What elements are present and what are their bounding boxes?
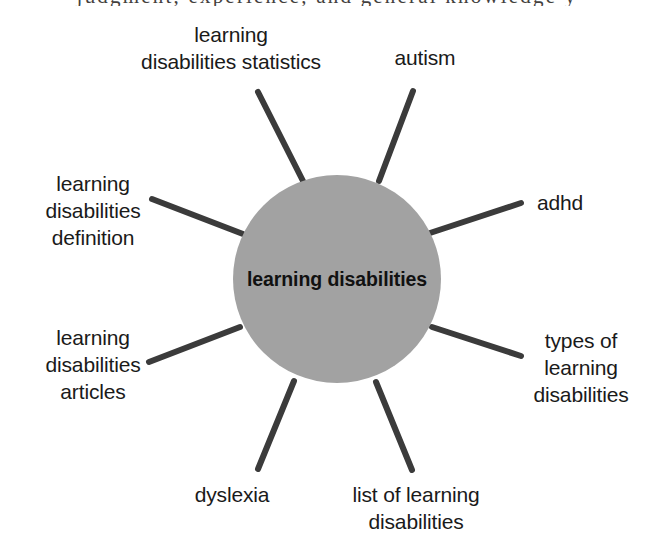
node-label-learning-disabilities-statistics[interactable]: learning disabilities statistics xyxy=(110,22,352,76)
node-label-adhd[interactable]: adhd xyxy=(500,190,620,217)
hub-circle-learning-disabilities[interactable]: learning disabilities xyxy=(233,175,441,383)
diagram-canvas: judgment, experience, and general knowle… xyxy=(0,0,654,551)
spoke-line-learning-disabilities-statistics xyxy=(258,92,303,181)
node-label-list-of-learning-disabilities[interactable]: list of learning disabilities xyxy=(310,482,522,536)
node-label-learning-disabilities-definition[interactable]: learning disabilities definition xyxy=(14,171,172,252)
node-label-dyslexia[interactable]: dyslexia xyxy=(152,482,312,509)
hub-label: learning disabilities xyxy=(247,268,427,291)
spoke-line-list-of-learning-disabilities xyxy=(376,382,412,470)
spoke-line-dyslexia xyxy=(258,381,294,469)
spoke-line-autism xyxy=(379,91,413,181)
node-label-learning-disabilities-articles[interactable]: learning disabilities articles xyxy=(14,325,172,406)
node-label-types-of-learning-disabilities[interactable]: types of learning disabilities xyxy=(508,328,654,409)
node-label-autism[interactable]: autism xyxy=(355,45,495,72)
